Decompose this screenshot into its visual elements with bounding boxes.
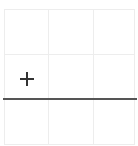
plus-icon[interactable]: [20, 72, 34, 86]
grid-row-divider: [5, 54, 134, 55]
grid-column-divider: [48, 10, 49, 144]
baseline-divider: [3, 98, 137, 100]
grid-canvas[interactable]: [0, 0, 138, 146]
grid-column-divider: [93, 10, 94, 144]
